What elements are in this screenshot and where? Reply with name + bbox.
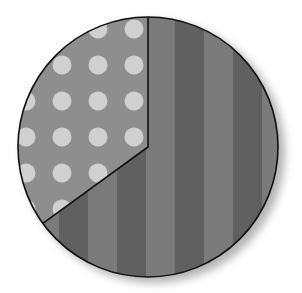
pie-chart-svg [0, 0, 302, 293]
